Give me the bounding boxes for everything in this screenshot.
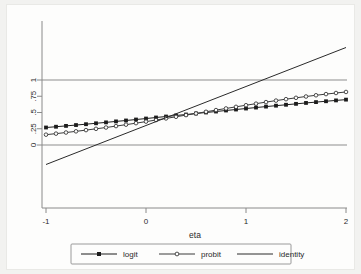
marker-logit-8 [124,119,128,123]
marker-logit-2 [64,124,68,128]
marker-logit-22 [264,105,268,109]
x-axis-title: eta [189,230,201,240]
x-tick-label-1: 1 [244,217,249,226]
y-tick-label-025: .25 [29,123,38,135]
marker-probit-18 [224,107,228,111]
marker-logit-26 [304,101,308,105]
marker-probit-24 [284,97,288,101]
y-tick-label-075: .75 [29,90,38,102]
marker-logit-5 [94,121,98,125]
marker-probit-28 [324,92,328,96]
marker-probit-3 [74,130,78,134]
legend-marker-probit [175,252,179,256]
marker-logit-3 [74,123,78,127]
y-tick-label-0: 0 [29,142,38,147]
marker-probit-14 [184,113,188,117]
marker-probit-4 [84,128,88,132]
plot-background [7,5,354,269]
marker-logit-29 [334,99,338,103]
x-tick-label-neg1: -1 [42,217,50,226]
marker-logit-6 [104,120,108,124]
y-tick-label-1: 1 [29,77,38,82]
marker-logit-1 [54,125,58,129]
marker-logit-4 [84,122,88,126]
marker-probit-27 [314,93,318,97]
chart-card: 0 .25 .5 .75 1 -1 0 1 2 eta logitprobiti… [7,5,354,269]
marker-probit-2 [64,131,68,135]
y-tick-label-05: .5 [29,109,38,116]
legend-label-logit: logit [123,250,138,259]
marker-probit-17 [214,108,218,112]
marker-probit-20 [244,103,248,107]
marker-probit-1 [54,132,58,136]
marker-logit-0 [44,126,48,130]
marker-probit-0 [44,133,48,137]
marker-probit-9 [134,121,138,125]
x-tick-label-2: 2 [344,217,349,226]
marker-probit-29 [334,91,338,95]
marker-probit-19 [234,105,238,109]
marker-probit-23 [274,99,278,103]
marker-logit-21 [254,106,258,110]
marker-logit-25 [294,102,298,106]
marker-probit-13 [174,115,178,119]
chart-plot: 0 .25 .5 .75 1 -1 0 1 2 eta logitprobiti… [7,5,354,269]
marker-probit-16 [204,110,208,114]
marker-logit-30 [344,98,348,102]
marker-probit-7 [114,124,118,128]
marker-logit-23 [274,104,278,108]
legend-marker-logit [97,252,101,256]
legend-label-probit: probit [201,250,222,259]
screenshot-root: 0 .25 .5 .75 1 -1 0 1 2 eta logitprobiti… [0,0,361,274]
marker-probit-15 [194,112,198,116]
x-tick-label-0: 0 [144,217,149,226]
marker-probit-30 [344,90,348,94]
marker-probit-8 [124,123,128,127]
marker-logit-9 [134,118,138,122]
marker-logit-24 [284,103,288,107]
legend-label-identity: identity [279,250,304,259]
marker-probit-21 [254,102,258,106]
marker-logit-28 [324,99,328,103]
marker-probit-26 [304,95,308,99]
marker-probit-25 [294,96,298,100]
marker-probit-6 [104,126,108,130]
marker-probit-22 [264,100,268,104]
marker-logit-27 [314,100,318,104]
marker-probit-10 [144,120,148,124]
marker-probit-5 [94,127,98,131]
marker-logit-7 [114,120,118,124]
